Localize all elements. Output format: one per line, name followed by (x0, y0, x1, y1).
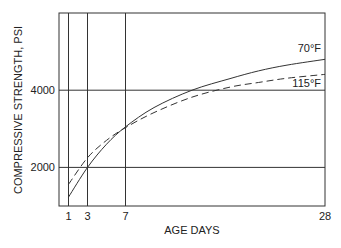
x-tick-label: 1 (65, 210, 71, 222)
y-axis-label: COMPRESSIVE STRENGTH, PSI (12, 26, 24, 194)
series-lines (69, 59, 326, 197)
grid-lines (59, 13, 325, 206)
x-tick-label: 28 (319, 210, 331, 222)
plot-frame (59, 13, 325, 206)
series-labels: 70°F115°F (292, 42, 321, 89)
series-label: 115°F (292, 77, 321, 89)
x-tick-label: 3 (84, 210, 90, 222)
y-tick-label: 4000 (31, 84, 55, 96)
x-axis-ticks: 13728 (65, 210, 331, 222)
y-axis-ticks: 20004000 (31, 84, 55, 173)
series-label: 70°F (298, 42, 322, 54)
x-axis-label: AGE DAYS (164, 224, 219, 236)
strength-chart: 13728 20004000 70°F115°F AGE DAYS COMPRE… (0, 0, 341, 248)
y-tick-label: 2000 (31, 161, 55, 173)
series-line-70f (69, 59, 326, 197)
x-tick-label: 7 (122, 210, 128, 222)
